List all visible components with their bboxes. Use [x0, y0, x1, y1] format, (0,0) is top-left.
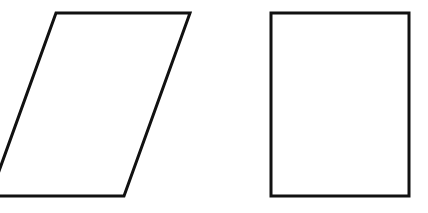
rectangle-shape	[271, 13, 409, 196]
diagram-canvas	[0, 0, 428, 213]
parallelogram-shape	[0, 13, 190, 196]
